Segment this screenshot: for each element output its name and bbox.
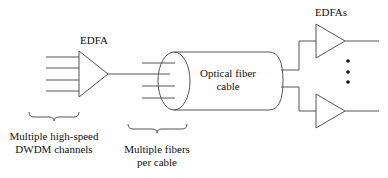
- fibers-brace: [128, 124, 187, 133]
- ellipsis-dots-icon: [346, 59, 350, 84]
- cable-output-lower: [281, 87, 316, 111]
- edfa-amplifier-icon: [79, 51, 108, 97]
- edfa-upper-icon: [316, 24, 345, 58]
- edfa-label: EDFA: [74, 34, 114, 47]
- fibers-label-line1: Multiple fibers: [117, 143, 197, 156]
- input-channel-lines: [46, 57, 79, 91]
- cable-label-line2: cable: [196, 80, 260, 93]
- channels-label-line1: Multiple high-speed: [4, 130, 104, 143]
- edfa-lower-icon: [316, 94, 345, 128]
- channels-label-line2: DWDM channels: [4, 143, 104, 156]
- edfas-label: EDFAs: [306, 6, 356, 19]
- channels-brace: [29, 112, 79, 121]
- fibers-label-line2: per cable: [117, 156, 197, 169]
- cable-output-upper: [281, 41, 316, 70]
- cable-label-line1: Optical fiber: [196, 67, 260, 80]
